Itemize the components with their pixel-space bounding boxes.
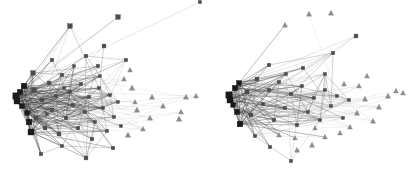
- graph-node[interactable]: [125, 132, 130, 137]
- graph-node[interactable]: [60, 73, 64, 77]
- graph-node[interactable]: [20, 104, 25, 109]
- graph-node[interactable]: [309, 142, 314, 147]
- graph-node[interactable]: [79, 82, 82, 85]
- graph-node[interactable]: [227, 97, 233, 103]
- graph-node[interactable]: [283, 106, 286, 109]
- graph-node[interactable]: [267, 63, 271, 67]
- graph-node[interactable]: [342, 81, 347, 86]
- graph-node[interactable]: [31, 71, 36, 76]
- graph-node[interactable]: [76, 126, 80, 130]
- graph-node[interactable]: [32, 88, 37, 93]
- graph-node[interactable]: [84, 54, 88, 58]
- graph-node[interactable]: [194, 93, 199, 98]
- graph-node[interactable]: [46, 113, 49, 116]
- graph-node[interactable]: [357, 83, 362, 88]
- graph-node[interactable]: [365, 73, 370, 78]
- graph-node[interactable]: [63, 87, 66, 90]
- graph-node[interactable]: [234, 109, 239, 114]
- graph-node[interactable]: [64, 116, 68, 120]
- graph-node[interactable]: [57, 132, 61, 136]
- graph-node[interactable]: [71, 103, 74, 106]
- graph-node[interactable]: [267, 88, 271, 92]
- graph-node[interactable]: [268, 145, 271, 148]
- graph-node[interactable]: [336, 95, 339, 98]
- graph-node[interactable]: [21, 83, 27, 89]
- graph-node[interactable]: [198, 0, 201, 3]
- graph-node[interactable]: [60, 144, 63, 147]
- graph-node[interactable]: [83, 110, 86, 113]
- graph-node[interactable]: [26, 119, 32, 125]
- graph-node[interactable]: [97, 86, 100, 89]
- graph-node[interactable]: [108, 93, 111, 96]
- graph-node[interactable]: [87, 95, 90, 98]
- graph-node[interactable]: [112, 115, 115, 118]
- graph-node[interactable]: [293, 136, 298, 140]
- graph-node[interactable]: [43, 126, 47, 130]
- graph-node[interactable]: [300, 84, 303, 87]
- graph-node[interactable]: [237, 121, 243, 127]
- graph-node[interactable]: [68, 90, 72, 94]
- graph-node[interactable]: [282, 22, 287, 27]
- graph-node[interactable]: [323, 72, 326, 75]
- graph-node[interactable]: [50, 108, 54, 112]
- graph-node[interactable]: [96, 64, 99, 67]
- graph-node[interactable]: [34, 116, 38, 120]
- graph-node[interactable]: [39, 152, 43, 156]
- graph-node[interactable]: [111, 146, 115, 150]
- graph-node[interactable]: [261, 102, 265, 106]
- graph-node[interactable]: [50, 58, 54, 62]
- graph-node[interactable]: [312, 96, 315, 99]
- graph-node[interactable]: [28, 129, 34, 135]
- graph-node[interactable]: [401, 90, 406, 95]
- graph-node[interactable]: [93, 120, 96, 123]
- graph-node[interactable]: [348, 99, 351, 102]
- graph-node[interactable]: [354, 34, 358, 38]
- graph-node[interactable]: [301, 66, 304, 69]
- graph-node[interactable]: [40, 98, 44, 102]
- graph-node[interactable]: [342, 117, 345, 120]
- graph-node[interactable]: [338, 130, 343, 135]
- graph-node[interactable]: [331, 51, 335, 55]
- graph-node[interactable]: [318, 118, 321, 121]
- graph-node[interactable]: [277, 80, 280, 83]
- graph-node[interactable]: [68, 24, 73, 29]
- graph-node[interactable]: [117, 101, 120, 104]
- graph-node[interactable]: [116, 15, 121, 20]
- graph-node[interactable]: [253, 134, 256, 137]
- graph-node[interactable]: [99, 75, 102, 78]
- graph-node[interactable]: [232, 85, 237, 90]
- graph-node[interactable]: [128, 67, 133, 72]
- graph-node[interactable]: [289, 92, 292, 95]
- graph-node[interactable]: [120, 125, 123, 128]
- graph-node[interactable]: [84, 156, 88, 160]
- graph-node[interactable]: [17, 89, 22, 94]
- graph-node[interactable]: [237, 81, 242, 86]
- graph-node[interactable]: [25, 111, 30, 116]
- graph-node[interactable]: [323, 88, 326, 91]
- graph-node[interactable]: [133, 100, 138, 104]
- graph-node[interactable]: [122, 76, 127, 81]
- graph-node[interactable]: [105, 129, 108, 132]
- graph-node[interactable]: [313, 126, 318, 130]
- graph-node[interactable]: [101, 106, 104, 109]
- graph-node[interactable]: [176, 116, 181, 121]
- right-graph-canvas[interactable]: [207, 0, 415, 178]
- graph-node[interactable]: [179, 109, 184, 114]
- graph-node[interactable]: [255, 77, 259, 81]
- graph-node[interactable]: [306, 110, 309, 113]
- graph-node[interactable]: [141, 126, 146, 131]
- graph-node[interactable]: [306, 11, 311, 16]
- graph-node[interactable]: [149, 94, 154, 99]
- graph-node[interactable]: [47, 81, 51, 85]
- graph-node[interactable]: [160, 103, 165, 108]
- graph-node[interactable]: [14, 98, 20, 104]
- graph-node[interactable]: [272, 118, 276, 122]
- graph-node[interactable]: [394, 88, 399, 93]
- graph-node[interactable]: [231, 103, 236, 108]
- graph-node[interactable]: [289, 159, 292, 162]
- graph-node[interactable]: [284, 72, 287, 75]
- left-graph-canvas[interactable]: [0, 0, 207, 178]
- graph-node[interactable]: [102, 44, 106, 48]
- graph-node[interactable]: [90, 137, 94, 141]
- graph-node[interactable]: [295, 123, 298, 126]
